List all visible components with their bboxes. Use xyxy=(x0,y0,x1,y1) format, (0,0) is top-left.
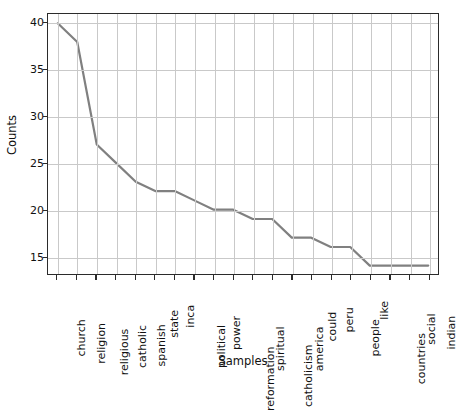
x-axis-tick-label-text: state xyxy=(169,310,180,338)
y-axis-tick-labels: 152025303540 xyxy=(16,0,44,280)
gridline-vertical xyxy=(195,14,196,274)
gridline-vertical xyxy=(391,14,392,274)
x-axis-tick-label: peru xyxy=(344,295,355,320)
x-axis-tick-mark xyxy=(95,275,96,280)
gridline-vertical xyxy=(136,14,137,274)
x-axis-tick-label: church xyxy=(75,301,86,338)
gridline-vertical xyxy=(156,14,157,274)
x-axis-tick-label-text: church xyxy=(75,319,86,356)
x-axis-tick-label: like xyxy=(380,291,391,310)
x-axis-tick-labels: churchreligionreligiouscatholicspanishst… xyxy=(47,282,439,350)
x-axis-tick-label: state xyxy=(169,296,180,324)
x-axis-tick-mark xyxy=(291,275,292,280)
gridline-vertical xyxy=(371,14,372,274)
x-axis-tick-label-text: power xyxy=(231,316,242,350)
x-axis-tick-mark xyxy=(174,275,175,280)
gridline-horizontal xyxy=(48,164,438,165)
x-axis-tick-mark xyxy=(213,275,214,280)
x-axis-tick-label-text: inca xyxy=(186,305,197,328)
x-axis-label: Samples xyxy=(47,354,439,368)
x-axis-tick-label: political xyxy=(216,304,227,347)
x-axis-tick-mark xyxy=(56,275,57,280)
counts-line-series xyxy=(48,14,438,274)
gridline-horizontal xyxy=(48,258,438,259)
gridline-vertical xyxy=(97,14,98,274)
x-axis-tick-mark xyxy=(233,275,234,280)
gridline-vertical xyxy=(273,14,274,274)
gridline-vertical xyxy=(77,14,78,274)
gridline-vertical xyxy=(293,14,294,274)
gridline-vertical xyxy=(352,14,353,274)
gridline-vertical xyxy=(58,14,59,274)
x-axis-tick-mark xyxy=(429,275,430,280)
x-axis-tick-label: indian xyxy=(446,299,457,333)
x-axis-tick-mark xyxy=(272,275,273,280)
x-axis-tick-mark xyxy=(350,275,351,280)
x-axis-tick-label-text: people xyxy=(369,319,380,356)
x-axis-tick-label: religious xyxy=(119,305,130,352)
gridline-horizontal xyxy=(48,70,438,71)
gridline-vertical xyxy=(254,14,255,274)
x-axis-tick-label-text: religious xyxy=(119,329,130,376)
x-axis-tick-mark xyxy=(76,275,77,280)
gridline-vertical xyxy=(117,14,118,274)
x-axis-ticks xyxy=(47,275,439,281)
x-axis-tick-mark xyxy=(193,275,194,280)
gridline-vertical xyxy=(411,14,412,274)
x-axis-tick-mark xyxy=(311,275,312,280)
gridline-vertical xyxy=(430,14,431,274)
gridline-vertical xyxy=(332,14,333,274)
gridline-vertical xyxy=(175,14,176,274)
plot-area xyxy=(47,13,439,275)
gridline-horizontal xyxy=(48,23,438,24)
x-axis-tick-label-text: peru xyxy=(344,307,355,332)
x-axis-tick-label-text: social xyxy=(425,313,436,344)
x-axis-tick-mark xyxy=(252,275,253,280)
x-axis-tick-label: social xyxy=(425,298,436,329)
x-axis-tick-label: religion xyxy=(97,302,108,343)
x-axis-tick-mark xyxy=(135,275,136,280)
gridline-horizontal xyxy=(48,211,438,212)
x-axis-tick-label: inca xyxy=(186,293,197,316)
x-axis-tick-mark xyxy=(115,275,116,280)
x-axis-tick-label: catholic xyxy=(137,303,148,346)
x-axis-tick-mark xyxy=(409,275,410,280)
gridline-vertical xyxy=(234,14,235,274)
x-axis-tick-label: spiritual xyxy=(275,304,286,348)
x-axis-tick-label-text: indian xyxy=(446,316,457,350)
x-axis-tick-mark xyxy=(370,275,371,280)
x-axis-tick-label-text: like xyxy=(380,301,391,320)
x-axis-tick-mark xyxy=(331,275,332,280)
x-axis-tick-label: america xyxy=(314,304,325,349)
gridline-vertical xyxy=(313,14,314,274)
x-axis-tick-mark xyxy=(154,275,155,280)
gridline-vertical xyxy=(215,14,216,274)
x-axis-tick-mark xyxy=(389,275,390,280)
x-axis-tick-label-text: could xyxy=(326,312,337,342)
gridline-horizontal xyxy=(48,117,438,118)
x-axis-tick-label: power xyxy=(231,299,242,333)
x-axis-tick-label: spanish xyxy=(156,303,167,345)
x-axis-tick-label: could xyxy=(326,297,337,327)
